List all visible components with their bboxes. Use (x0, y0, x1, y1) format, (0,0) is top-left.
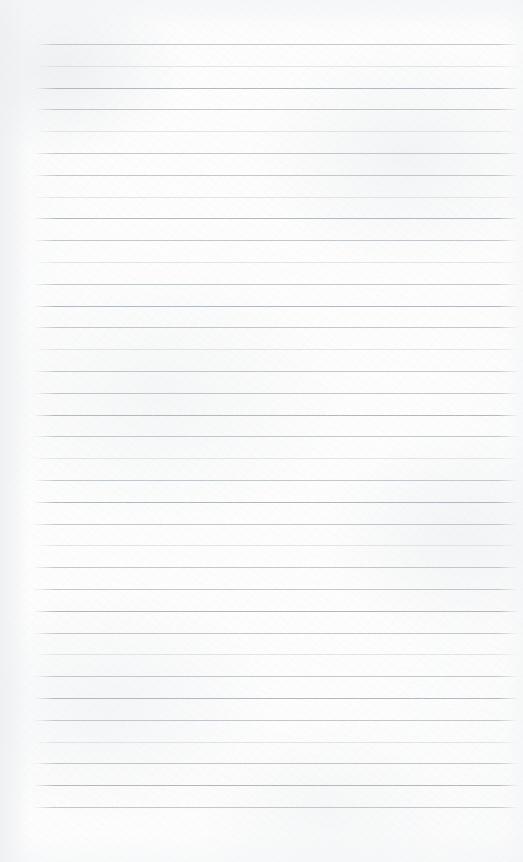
writing-area[interactable] (33, 44, 520, 810)
notebook-page (0, 0, 523, 862)
